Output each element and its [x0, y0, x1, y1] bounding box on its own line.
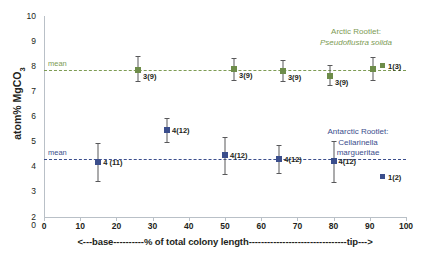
error-bar-cap [165, 118, 170, 119]
error-bar-cap [136, 56, 141, 57]
mean-line-arctic [44, 70, 406, 71]
error-bar-cap [232, 80, 237, 81]
annotation-arctic: Arctic Rootlet: Pseudoflustra solida [296, 27, 416, 48]
mean-label-antarctic: mean [48, 148, 67, 157]
y-tick-label: 9 [14, 37, 36, 46]
error-bar-cap [96, 181, 101, 182]
error-bar-cap [96, 143, 101, 144]
data-point-marker [95, 159, 101, 165]
data-point-marker [164, 127, 170, 133]
data-point-label: 4(12) [172, 126, 190, 135]
x-tick-label: 10 [68, 222, 92, 231]
error-bar-cap [327, 65, 332, 66]
error-bar-cap [277, 173, 282, 174]
x-axis-title: <---base----------% of total colony leng… [44, 236, 406, 247]
x-tick-label: 30 [141, 222, 165, 231]
y-axis-title-text: atom% MgCO [11, 72, 23, 140]
data-point-label: 3(9) [335, 78, 348, 87]
y-tick-label: 4 [14, 162, 36, 171]
x-tick-label: 100 [394, 222, 418, 231]
y-tick-label: 7 [14, 87, 36, 96]
x-tick-label: 50 [213, 222, 237, 231]
x-tick-label: 80 [322, 222, 346, 231]
error-bar-cap [223, 174, 228, 175]
x-tick-label: 20 [104, 222, 128, 231]
error-bar-cap [136, 81, 141, 82]
data-point-marker [280, 68, 286, 74]
legend-item-antarctic: 1(2) [380, 173, 401, 182]
x-tick-label: 40 [177, 222, 201, 231]
annotation-arctic-line1: Arctic Rootlet: [296, 27, 416, 38]
error-bar-cap [232, 58, 237, 59]
legend-item-arctic: 1(3) [380, 62, 401, 71]
data-point-label: 4(12) [230, 151, 248, 160]
data-point-marker [327, 73, 333, 79]
error-bar-cap [165, 142, 170, 143]
annotation-arctic-species: Pseudoflustra solida [296, 38, 416, 49]
annotation-antarctic: Antarctic Rootlet: Cellarinella margueri… [300, 127, 416, 159]
data-point-marker [231, 66, 237, 72]
legend-swatch-antarctic [380, 174, 385, 179]
y-axis-title: atom% MgCO3 [11, 39, 26, 169]
y-axis-line [44, 16, 45, 217]
error-bar-cap [331, 182, 336, 183]
x-tick-label: 60 [249, 222, 273, 231]
annotation-antarctic-line3: margueritae [300, 148, 416, 159]
error-bar-cap [277, 145, 282, 146]
data-point-label: 4 (11) [103, 158, 122, 167]
data-point-marker [222, 152, 228, 158]
chart-figure: atom% MgCO3 23456789100 0102030405060708… [0, 0, 422, 260]
legend-label-arctic: 1(3) [388, 62, 401, 71]
data-point-marker [370, 66, 376, 72]
error-bar-cap [371, 57, 376, 58]
y-tick-label: 10 [14, 12, 36, 21]
y-tick-label: 5 [14, 137, 36, 146]
x-tick-label: 90 [358, 222, 382, 231]
data-point-marker [331, 158, 337, 164]
annotation-antarctic-line1: Antarctic Rootlet: [300, 127, 416, 138]
data-point-label: 3(9) [288, 73, 301, 82]
x-tick-label: 0 [32, 222, 56, 231]
legend-swatch-arctic [380, 63, 385, 68]
legend-label-antarctic: 1(2) [388, 173, 401, 182]
error-bar-cap [223, 137, 228, 138]
data-point-label: 3(9) [143, 72, 156, 81]
error-bar-cap [280, 81, 285, 82]
data-point-label: 4(12) [339, 157, 357, 166]
error-bar-cap [327, 85, 332, 86]
data-point-marker [135, 67, 141, 73]
y-tick-label: 3 [14, 187, 36, 196]
data-point-label: 3(9) [239, 71, 252, 80]
annotation-antarctic-line2: Cellarinella [300, 138, 416, 149]
error-bar-cap [280, 60, 285, 61]
mean-label-arctic: mean [48, 59, 67, 68]
y-tick-label: 6 [14, 112, 36, 121]
x-tick-label: 70 [285, 222, 309, 231]
error-bar-cap [371, 80, 376, 81]
y-tick-label: 8 [14, 62, 36, 71]
data-point-marker [276, 156, 282, 162]
